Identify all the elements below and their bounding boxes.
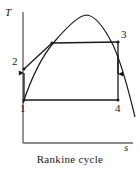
state-label-4: 4 [115, 103, 121, 114]
process-2-3-boiler-evaporation [52, 42, 118, 43]
state-point-3-marker [116, 40, 119, 43]
process-2-3-boiler-liquid [24, 43, 52, 69]
x-axis-label: s [124, 142, 128, 153]
state-point-2-marker [23, 68, 26, 71]
state-label-3: 3 [121, 29, 127, 40]
dome-knee-marker [51, 42, 54, 45]
state-label-2: 2 [12, 56, 18, 67]
figure-caption: Rankine cycle [0, 153, 140, 165]
ts-diagram [0, 0, 140, 171]
rankine-cycle-figure: T s 1 2 3 4 Rankine cycle [0, 0, 140, 171]
state-label-1: 1 [20, 103, 26, 114]
y-axis-label: T [5, 7, 11, 18]
